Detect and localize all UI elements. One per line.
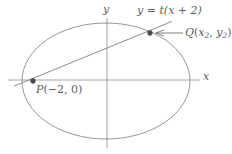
- q-pointer-arrow: [156, 30, 183, 36]
- figure-canvas: [0, 0, 232, 154]
- point-q-name: Q: [185, 26, 194, 39]
- ellipse-curve: [22, 23, 190, 139]
- point-p-marker: [31, 79, 36, 84]
- point-p-label: P(−2, 0): [36, 84, 82, 95]
- point-q-paren-close: ): [227, 26, 231, 39]
- point-p-coordinates: (−2, 0): [43, 83, 82, 96]
- point-q-marker: [148, 31, 153, 36]
- line-equation-label: y = t(x + 2): [137, 5, 202, 16]
- y-axis-label: y: [103, 4, 109, 15]
- ellipse-secant-figure: y x y = t(x + 2) Q(x2, y2) P(−2, 0): [0, 0, 232, 154]
- line-equation-text: y = t(x + 2): [137, 4, 202, 17]
- point-q-label: Q(x2, y2): [185, 27, 232, 40]
- x-axis-label: x: [203, 71, 209, 82]
